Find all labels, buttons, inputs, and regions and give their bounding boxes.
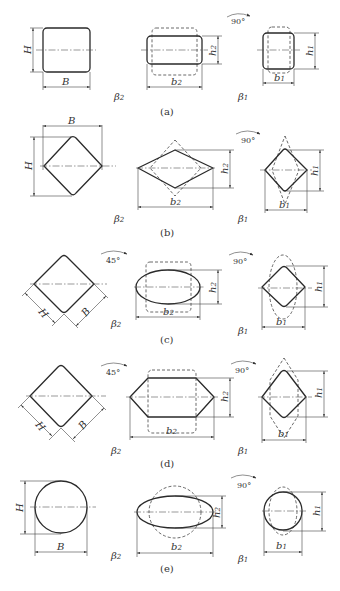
row-d: 45° H B h2 b2 β2 (d) (18, 358, 328, 469)
row-d-pass1: h1 b1 (258, 358, 328, 443)
dim-b1: b1 (276, 316, 287, 327)
beta1-label: β1 (237, 91, 248, 102)
rotation-45: 45° (106, 256, 120, 265)
row-a-pass2: h2 b2 (141, 28, 222, 90)
beta2-label: β2 (110, 550, 122, 561)
dim-h1: h1 (304, 45, 315, 56)
beta2-label: β2 (113, 213, 125, 224)
dim-b1: b1 (276, 540, 287, 551)
dim-b2: b2 (163, 306, 174, 317)
row-b-pass2: h2 b2 (136, 140, 234, 210)
row-c-pass1: h1 b1 (258, 255, 328, 330)
dim-h1: h1 (311, 505, 322, 516)
dim-H: H (23, 161, 34, 171)
row-b-pass1: h1 b1 (260, 136, 324, 213)
beta1-label: β1 (237, 213, 248, 224)
row-b-initial-diamond: B H (23, 115, 116, 196)
dim-b1: b1 (274, 72, 285, 83)
beta1-label: β1 (237, 445, 248, 456)
dim-B: B (67, 115, 75, 126)
row-c-pass2: h2 b2 (134, 262, 222, 320)
rotation-arrow-icon (231, 475, 256, 478)
rotation-90: 90° (241, 136, 255, 145)
rotation-arrow-icon (101, 251, 127, 254)
row-e-pass1: h1 b1 (262, 487, 326, 556)
dim-b2: b2 (166, 425, 177, 436)
rotation-arrow-icon (231, 361, 256, 364)
dim-b1: b1 (278, 428, 289, 439)
dim-B: B (61, 76, 69, 87)
row-d-initial-square-45: H B (18, 366, 106, 443)
caption-c: (c) (160, 334, 174, 345)
row-b: B H h2 b2 β2 90° (23, 115, 324, 238)
row-e-pass2: h2 b2 (134, 486, 226, 557)
rotation-arrow-icon (101, 363, 127, 366)
row-a-pass1: h1 b1 (257, 27, 319, 86)
dim-h1: h1 (309, 165, 320, 176)
dim-h1: h1 (313, 387, 324, 398)
row-d-pass2: h2 b2 (126, 370, 234, 440)
row-c: 45° H B h2 b2 β2 (c) (22, 251, 328, 345)
dim-H: H (36, 305, 51, 320)
caption-a: (a) (160, 106, 174, 117)
dim-b2: b2 (170, 196, 181, 207)
row-e: H B h2 b2 β2 (e) 90° (14, 475, 326, 574)
row-a-initial-square: H B (22, 28, 96, 90)
rotation-90: 90° (237, 481, 251, 490)
dim-B: B (78, 306, 92, 319)
dim-b2: b2 (171, 541, 182, 552)
rotation-90: 90° (233, 257, 247, 266)
rotation-90: 90° (231, 17, 245, 26)
dim-B: B (56, 541, 64, 552)
row-a: H B h2 b2 β2 90° (22, 14, 319, 117)
dim-h2: h2 (219, 163, 230, 174)
dim-b1: b1 (279, 199, 290, 210)
rotation-45: 45° (106, 368, 120, 377)
beta2-label: β2 (110, 318, 122, 329)
caption-d: (d) (160, 458, 174, 469)
beta1-label: β1 (237, 553, 248, 564)
beta2-label: β2 (113, 91, 125, 102)
dim-h1: h1 (313, 281, 324, 292)
dim-h2: h2 (219, 391, 230, 402)
rotation-arrow-icon (236, 131, 260, 134)
beta2-label: β2 (110, 445, 122, 456)
row-e-initial-circle: H B (14, 481, 96, 556)
dim-b2: b2 (171, 76, 182, 87)
rotation-90: 90° (235, 366, 249, 375)
row-c-initial-square-45: H B (22, 256, 108, 329)
rolling-pass-diagram: H B h2 b2 β2 90° (0, 0, 340, 591)
caption-e: (e) (160, 563, 174, 574)
dim-h2: h2 (207, 45, 218, 56)
dim-H: H (14, 503, 25, 513)
dim-H: H (22, 45, 33, 55)
dim-B: B (75, 419, 89, 432)
caption-b: (b) (160, 227, 174, 238)
dim-H: H (33, 418, 48, 433)
rotation-arrow-icon (229, 252, 253, 255)
dim-h2: h2 (207, 282, 218, 293)
beta1-label: β1 (237, 325, 248, 336)
